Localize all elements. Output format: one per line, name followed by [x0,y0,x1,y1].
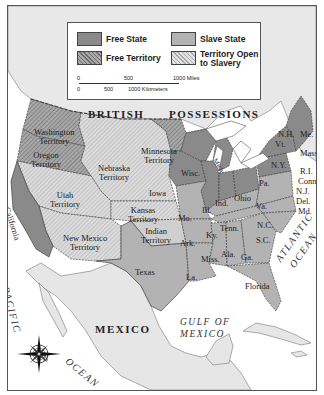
label-british: BRITISH [88,110,144,119]
label-conn: Conn. [298,177,317,186]
legend-free-state: Free State [106,35,147,44]
label-possessions: POSSESSIONS [169,110,259,119]
label-gulf-line1: GULF OF [180,318,230,327]
scale-km-0: 0 [77,86,80,92]
label-minnesota-territory: MinnesotaTerritory [141,147,177,165]
label-ark: Ark. [180,239,195,248]
label-iowa: Iowa [149,189,166,198]
scale-km-500: 500 [104,86,113,92]
label-ny: N.Y. [271,161,286,170]
label-mass: Mass. [300,149,317,158]
legend-slave-state: Slave State [200,35,245,44]
scale-bar [79,83,179,84]
label-me: Me. [300,130,313,139]
label-ill: Ill. [202,206,212,215]
scale-km-1000: 1000 Kilometers [128,86,168,92]
scale-miles-0: 0 [77,75,80,81]
open-territory-swatch [171,51,196,65]
label-mo: Mo. [178,214,192,223]
label-new-mexico-territory: New MexicoTerritory [63,234,107,252]
free-territory-swatch [77,51,102,65]
label-nj: N.J. [296,187,310,196]
label-utah-territory: UtahTerritory [50,191,80,209]
label-tenn: Tenn. [220,224,239,233]
label-mexico: MEXICO [95,325,150,334]
label-ohio: Ohio [234,194,251,203]
label-texas: Texas [135,268,155,277]
label-ind: Ind. [215,199,228,208]
map-frame: Free State Slave State Free Territory Te… [7,5,317,391]
label-gulf-line2: MEXICO [180,330,225,339]
slave-state-swatch [171,32,196,46]
label-nebraska-territory: NebraskaTerritory [98,164,130,182]
scale-miles-500: 500 [124,75,133,81]
label-washington-territory: WashingtonTerritory [34,128,74,146]
compass-north-label: N [43,354,48,363]
label-la: La. [186,273,197,282]
label-va: Va. [256,202,267,211]
label-ala: Ala. [221,250,235,259]
free-state-swatch [77,32,102,46]
label-florida: Florida [245,282,270,291]
label-vt: Vt. [275,140,286,149]
label-indian-territory: IndianTerritory [141,227,171,245]
label-nc: N.C. [257,221,273,230]
label-sc: S.C. [256,236,271,245]
label-ky: Ky. [206,231,218,240]
label-wisc: Wisc. [181,169,200,178]
label-del: Del. [296,197,310,206]
legend-open-territory-line2: to Slavery [200,59,241,68]
label-pa: Pa. [259,179,270,188]
label-nh: N.H. [278,130,295,139]
label-miss: Miss. [201,255,220,264]
label-ga: Ga. [241,253,253,262]
label-kansas-territory: KansasTerritory [128,206,158,224]
map-legend: Free State Slave State Free Territory Te… [67,22,261,100]
label-ri: R.I. [300,167,313,176]
label-md: Md. [298,207,312,216]
scale-miles-1000: 1000 Miles [173,75,200,81]
legend-free-territory: Free Territory [106,54,161,63]
label-oregon-territory: OregonTerritory [31,151,61,169]
